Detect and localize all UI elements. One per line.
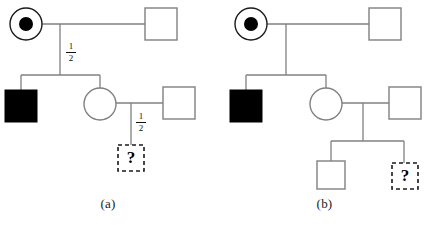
individual-unaffected-male-gen1: [369, 8, 401, 40]
pedigree-figure: 1 2 1 2 ? (a): [0, 0, 433, 225]
pedigree-panel-b: ? (b): [216, 0, 433, 225]
individual-unaffected-female-gen2: [310, 88, 342, 120]
individual-affected-male-gen2: [230, 90, 262, 122]
fraction-denominator: 2: [134, 123, 148, 133]
individual-unaffected-female-gen2: [84, 88, 116, 120]
individual-unaffected-male-gen3: [317, 161, 345, 189]
individual-carrier-female-gen1: [235, 8, 267, 40]
fraction-denominator: 2: [64, 53, 78, 63]
individual-unaffected-male-gen1: [145, 8, 177, 40]
panel-caption-a: (a): [0, 196, 216, 212]
pedigree-panel-a: 1 2 1 2 ? (a): [0, 0, 216, 225]
individual-spouse-male-gen2: [163, 87, 195, 119]
fraction-numerator: 1: [134, 112, 148, 122]
unknown-status-question-mark: ?: [118, 149, 144, 166]
probability-label-half-gen2: 1 2: [134, 112, 148, 133]
carrier-dot-icon: [244, 17, 258, 31]
individual-carrier-female-gen1: [10, 8, 42, 40]
unknown-status-question-mark: ?: [392, 167, 418, 184]
carrier-dot-icon: [19, 17, 33, 31]
panel-caption-b: (b): [216, 196, 433, 212]
fraction-numerator: 1: [64, 42, 78, 52]
pedigree-panel-a-graphic: [0, 0, 216, 196]
individual-spouse-male-gen2: [389, 87, 421, 119]
individual-affected-male-gen2: [5, 90, 37, 122]
probability-label-half-gen1: 1 2: [64, 42, 78, 63]
